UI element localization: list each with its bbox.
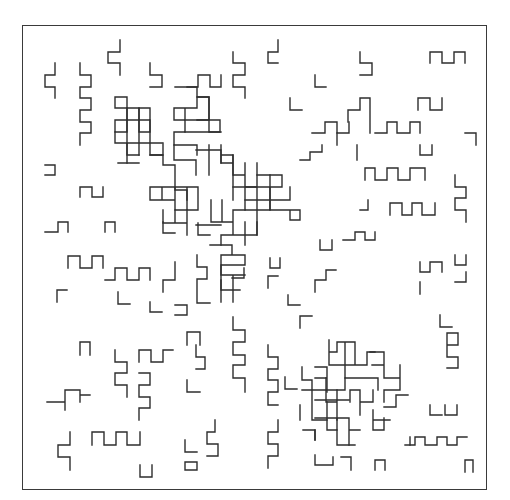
- cluster-lower-right: [300, 340, 400, 445]
- bond-segment: [365, 168, 425, 180]
- bond-segment: [58, 432, 70, 470]
- bond-segment: [187, 75, 221, 87]
- bond-segment: [270, 258, 280, 268]
- bond-segment: [384, 395, 408, 407]
- bond-segment: [196, 345, 205, 369]
- cluster-bond: [221, 265, 245, 302]
- bond-segment: [268, 276, 278, 288]
- bond-segment: [150, 63, 162, 87]
- bond-segment: [118, 292, 130, 304]
- bond-segment: [360, 200, 368, 210]
- bond-segment: [445, 405, 457, 415]
- bond-segment: [139, 350, 173, 362]
- bond-segment: [455, 255, 466, 265]
- bond-pattern: [0, 0, 510, 500]
- cluster-bond: [150, 187, 198, 210]
- bond-segment: [405, 437, 467, 445]
- bond-segment: [455, 272, 466, 282]
- bond-segment: [420, 145, 432, 155]
- bond-segment: [360, 52, 372, 75]
- bond-segment: [465, 133, 476, 145]
- bond-segment: [232, 268, 244, 278]
- cluster-center: [210, 145, 300, 302]
- bond-segment: [47, 390, 90, 410]
- bond-segment: [440, 315, 452, 327]
- bond-segment: [45, 63, 55, 98]
- bond-segment: [233, 317, 245, 392]
- cluster-bond: [302, 367, 345, 420]
- bond-segment: [140, 465, 152, 477]
- bond-segment: [268, 40, 278, 63]
- bond-segment: [105, 222, 115, 232]
- bond-segment: [68, 256, 103, 268]
- bond-segment: [92, 432, 140, 445]
- bond-segment: [430, 52, 465, 63]
- bond-segment: [108, 40, 120, 75]
- bond-segment: [268, 345, 278, 405]
- bond-segment: [233, 52, 245, 98]
- bond-segment: [80, 342, 90, 355]
- bond-segment: [343, 232, 375, 240]
- bond-segment: [315, 270, 336, 292]
- bond-segment: [115, 350, 127, 397]
- bond-segment: [447, 333, 458, 368]
- cluster-bond: [329, 340, 378, 390]
- cluster-bond: [150, 155, 187, 200]
- bond-segment: [268, 420, 278, 468]
- bond-segment: [290, 98, 302, 110]
- bond-segment: [207, 420, 218, 456]
- bond-segment: [420, 262, 442, 272]
- bond-segment: [390, 203, 435, 215]
- bond-segment: [312, 122, 349, 133]
- bond-segment: [187, 380, 200, 392]
- bond-segment: [80, 187, 103, 197]
- cluster-bond: [185, 97, 221, 132]
- bond-segment: [375, 122, 420, 133]
- bond-segment: [175, 305, 187, 315]
- cluster-upper-left: [115, 87, 233, 235]
- cluster-bond: [373, 410, 390, 430]
- bond-segment: [150, 302, 162, 312]
- cluster-bond: [174, 145, 233, 175]
- bond-segment: [187, 332, 200, 345]
- bond-segment: [45, 222, 68, 232]
- bond-segment: [315, 75, 326, 87]
- bond-segment: [315, 455, 351, 470]
- lattice-figure: [0, 0, 510, 500]
- bond-segment: [139, 373, 150, 420]
- bond-segment: [430, 405, 442, 415]
- bond-segment: [320, 240, 332, 250]
- bond-segment: [375, 460, 385, 470]
- bond-segment: [300, 316, 312, 328]
- bond-segment: [45, 165, 55, 175]
- cluster-bond: [163, 210, 210, 235]
- bond-segment: [348, 98, 370, 133]
- bond-segment: [465, 460, 473, 472]
- bond-segment: [185, 440, 197, 452]
- cluster-bond: [210, 245, 245, 290]
- bond-segment: [197, 255, 210, 303]
- bond-segment: [285, 377, 297, 389]
- bond-segment: [57, 290, 67, 302]
- bond-segment: [105, 268, 150, 280]
- bond-segment: [185, 462, 197, 470]
- cluster-bond: [326, 378, 373, 420]
- bond-segment: [300, 145, 322, 160]
- cluster-bond: [233, 175, 300, 220]
- bond-segment: [288, 295, 300, 305]
- bond-segment: [80, 63, 91, 145]
- cluster-bond: [115, 97, 150, 132]
- bond-segment: [455, 175, 466, 222]
- cluster-bond: [211, 200, 257, 245]
- bond-segment: [418, 98, 442, 110]
- bond-segment: [163, 262, 175, 292]
